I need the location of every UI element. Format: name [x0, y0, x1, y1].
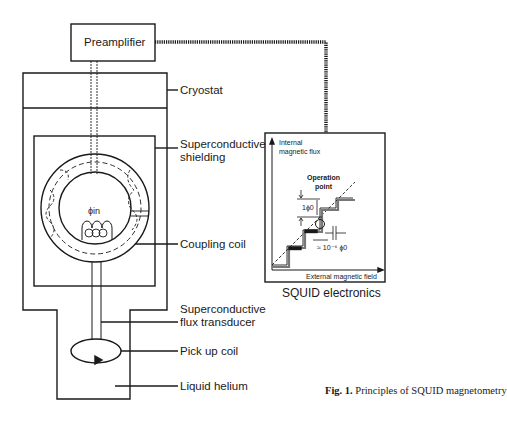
squid-electronics-label: SQUID electronics — [282, 287, 381, 300]
coupling-coil-label: Coupling coil — [180, 238, 246, 251]
y-axis-label-2: magnetic flux — [279, 148, 320, 156]
caption-prefix: Fig. 1. — [325, 385, 353, 396]
caption-text: Principles of SQUID magnetometry — [353, 385, 507, 396]
transducer-label-2: flux transducer — [180, 316, 255, 329]
y-axis-label-1: Internal — [279, 139, 302, 147]
step-label: 1ϕ0 — [302, 204, 314, 212]
resolution-label: ≈ 10⁻⁶ ϕ0 — [317, 244, 347, 252]
preamplifier-label: Preamplifier — [84, 36, 145, 49]
shielding-label-1: Superconductive — [180, 138, 266, 151]
x-axis-label: External magnetic field — [306, 273, 377, 281]
shielding-label-2: shielding — [180, 151, 225, 164]
phi-in-label: ϕin — [88, 207, 100, 215]
operation-point-label-2: point — [315, 183, 332, 191]
operation-point-label-1: Operation — [307, 174, 340, 182]
cryostat-label: Cryostat — [180, 84, 223, 97]
cryostat-outline — [23, 73, 167, 399]
figure-caption: Fig. 1. Principles of SQUID magnetometry — [325, 385, 507, 396]
liquid-helium-label: Liquid helium — [180, 380, 248, 393]
transducer-label-1: Superconductive — [180, 303, 266, 316]
pickup-coil-label: Pick up coil — [180, 345, 238, 358]
